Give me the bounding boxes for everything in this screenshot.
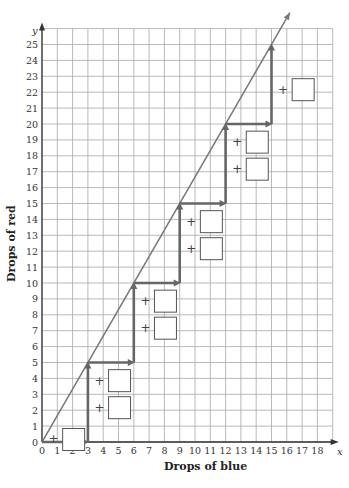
- x-tick-label: 16: [281, 445, 293, 456]
- answer-box[interactable]: +: [232, 131, 268, 153]
- x-tick-label: 15: [265, 445, 277, 456]
- plus-sign: +: [140, 294, 150, 308]
- plus-sign: +: [140, 321, 150, 335]
- x-tick-label: 13: [235, 445, 247, 456]
- x-tick-label: 12: [220, 445, 232, 456]
- answer-box[interactable]: +: [95, 370, 131, 392]
- plus-sign: +: [186, 242, 196, 256]
- plus-sign: +: [278, 83, 288, 97]
- x-tick-label: 8: [161, 445, 167, 456]
- answer-box[interactable]: +: [278, 79, 314, 101]
- answer-input-box[interactable]: [154, 290, 176, 312]
- answer-input-box[interactable]: [200, 238, 222, 260]
- answer-input-box[interactable]: [63, 428, 85, 450]
- y-tick-label: 9: [32, 293, 38, 304]
- y-tick-label: 3: [32, 389, 38, 400]
- x-axis-title: Drops of blue: [164, 460, 247, 473]
- answer-input-box[interactable]: [200, 211, 222, 233]
- x-tick-label: 1: [54, 445, 60, 456]
- plus-sign: +: [186, 215, 196, 229]
- y-tick-label: 17: [26, 166, 38, 177]
- grid: [42, 29, 333, 442]
- x-tick-label: 18: [311, 445, 323, 456]
- y-tick-label: 16: [26, 182, 38, 193]
- ratio-graph: 0123456789101112131415161718012345678910…: [0, 0, 349, 488]
- plus-sign: +: [95, 401, 105, 415]
- answer-box[interactable]: +: [186, 238, 222, 260]
- x-axis-variable: x: [337, 446, 343, 457]
- answer-box[interactable]: +: [140, 317, 176, 339]
- answer-box[interactable]: +: [140, 290, 176, 312]
- y-tick-label: 18: [26, 150, 38, 161]
- answer-input-box[interactable]: [109, 397, 131, 419]
- y-tick-label: 13: [26, 230, 38, 241]
- y-tick-label: 23: [26, 71, 38, 82]
- y-tick-label: 24: [26, 55, 38, 66]
- ratio-line: [42, 13, 290, 442]
- y-tick-label: 1: [32, 421, 38, 432]
- y-tick-label: 0: [32, 437, 38, 448]
- y-tick-label: 25: [26, 39, 38, 50]
- y-tick-label: 14: [26, 214, 38, 225]
- y-tick-label: 2: [32, 405, 38, 416]
- y-tick-label: 5: [32, 357, 38, 368]
- answer-box[interactable]: +: [232, 158, 268, 180]
- x-tick-label: 9: [177, 445, 183, 456]
- answer-box[interactable]: +: [186, 211, 222, 233]
- answer-input-box[interactable]: [109, 370, 131, 392]
- answer-input-box[interactable]: [154, 317, 176, 339]
- y-tick-label: 21: [26, 103, 38, 114]
- x-tick-label: 7: [146, 445, 152, 456]
- y-tick-label: 22: [26, 87, 38, 98]
- x-axis-arrow-icon: [331, 439, 339, 445]
- staircase-arrows: [42, 44, 275, 446]
- x-tick-label: 11: [204, 445, 216, 456]
- plus-sign: +: [232, 135, 242, 149]
- x-tick-label: 17: [296, 445, 308, 456]
- y-axis-title: Drops of red: [5, 205, 18, 282]
- y-tick-label: 4: [32, 373, 38, 384]
- y-tick-label: 6: [32, 341, 38, 352]
- y-tick-label: 8: [32, 309, 38, 320]
- plus-sign: +: [232, 162, 242, 176]
- x-tick-label: 3: [85, 445, 91, 456]
- x-tick-label: 6: [131, 445, 137, 456]
- x-tick-label: 5: [115, 445, 121, 456]
- y-tick-label: 12: [26, 246, 38, 257]
- y-tick-label: 20: [26, 119, 38, 130]
- ratio-line-path: [42, 13, 290, 442]
- answer-input-box[interactable]: [246, 158, 268, 180]
- plus-sign: +: [49, 432, 59, 446]
- y-tick-label: 15: [26, 198, 38, 209]
- y-tick-label: 10: [26, 278, 38, 289]
- plus-sign: +: [95, 374, 105, 388]
- answer-input-box[interactable]: [246, 131, 268, 153]
- y-tick-label: 19: [26, 134, 38, 145]
- x-tick-label: 0: [39, 445, 45, 456]
- y-axis-arrow-icon: [39, 23, 45, 31]
- answer-box[interactable]: +: [95, 397, 131, 419]
- y-tick-label: 7: [32, 325, 38, 336]
- x-tick-label: 10: [189, 445, 201, 456]
- y-axis-variable: y: [31, 25, 38, 36]
- y-tick-label: 11: [26, 262, 38, 273]
- answer-input-box[interactable]: [292, 79, 314, 101]
- x-tick-label: 14: [250, 445, 262, 456]
- x-tick-label: 4: [100, 445, 106, 456]
